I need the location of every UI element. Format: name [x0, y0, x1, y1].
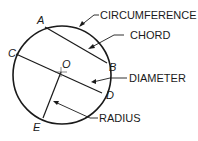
point-a-label: A [36, 14, 44, 26]
point-b-label: B [109, 61, 116, 73]
point-c-label: C [8, 47, 16, 59]
radius-label: RADIUS [99, 112, 141, 124]
chord-label: CHORD [130, 29, 170, 41]
circumference-label: CIRCUMFERENCE [100, 9, 197, 21]
point-d-label: D [106, 89, 114, 101]
point-e-label: E [33, 121, 41, 133]
diameter-leader [91, 78, 127, 84]
circle-diagram: A B C D E O CIRCUMFERENCE CHORD DIAMETER… [0, 0, 198, 141]
radius-leader [53, 101, 98, 118]
diameter-line [16, 54, 102, 93]
chord-line [45, 27, 107, 63]
diameter-label: DIAMETER [129, 72, 186, 84]
point-o-label: O [62, 58, 71, 70]
circumference-leader [79, 15, 99, 27]
radius-line [43, 72, 61, 118]
